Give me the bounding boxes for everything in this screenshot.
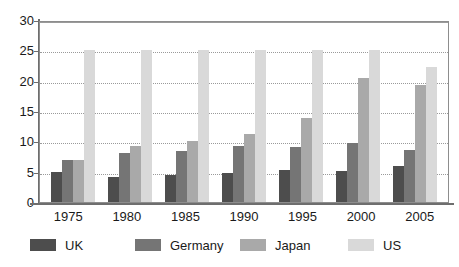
bar-japan-1975 bbox=[73, 160, 84, 202]
x-tick-label-1980: 1980 bbox=[98, 208, 156, 228]
bar-germany-1995 bbox=[290, 147, 301, 202]
bar-group-1985 bbox=[165, 22, 209, 202]
bar-japan-1985 bbox=[187, 141, 198, 202]
plot-area bbox=[39, 21, 449, 203]
x-tick-label-1985: 1985 bbox=[156, 208, 214, 228]
bar-uk-1995 bbox=[279, 170, 290, 202]
legend-label-japan: Japan bbox=[275, 239, 310, 252]
bar-group-1990 bbox=[222, 22, 266, 202]
bar-us-1980 bbox=[141, 50, 152, 202]
bars-layer bbox=[40, 22, 448, 202]
y-tick-label-5: 5 bbox=[0, 166, 34, 179]
y-tick-label-25: 25 bbox=[0, 44, 34, 57]
bar-germany-1975 bbox=[62, 160, 73, 202]
legend-item-japan[interactable]: Japan bbox=[240, 239, 310, 252]
chart-legend: UKGermanyJapanUS bbox=[30, 236, 450, 254]
bar-japan-1990 bbox=[244, 134, 255, 202]
x-tick-label-2000: 2000 bbox=[332, 208, 390, 228]
bar-germany-2005 bbox=[404, 150, 415, 202]
y-tick-label-0: 0 bbox=[0, 196, 34, 209]
bar-germany-2000 bbox=[347, 143, 358, 202]
bar-uk-1990 bbox=[222, 173, 233, 202]
y-tick-label-10: 10 bbox=[0, 135, 34, 148]
bar-uk-2000 bbox=[336, 171, 347, 202]
legend-swatch-germany bbox=[135, 239, 161, 251]
bar-japan-1995 bbox=[301, 118, 312, 202]
bar-group-2005 bbox=[393, 22, 437, 202]
bar-us-1975 bbox=[84, 50, 95, 202]
bar-uk-1975 bbox=[51, 172, 62, 202]
bar-us-1995 bbox=[312, 50, 323, 202]
legend-item-germany[interactable]: Germany bbox=[135, 239, 223, 252]
bar-japan-2005 bbox=[415, 85, 426, 202]
x-tick-label-1995: 1995 bbox=[274, 208, 332, 228]
bar-us-2005 bbox=[426, 67, 437, 202]
legend-swatch-us bbox=[348, 239, 374, 251]
x-axis-line bbox=[30, 203, 454, 205]
bar-uk-2005 bbox=[393, 166, 404, 202]
bar-uk-1980 bbox=[108, 177, 119, 202]
x-tick-label-1990: 1990 bbox=[215, 208, 273, 228]
bar-chart-figure: 051015202530 197519801985199019952000200… bbox=[0, 0, 459, 267]
y-tick-label-20: 20 bbox=[0, 75, 34, 88]
bar-japan-1980 bbox=[130, 146, 141, 202]
legend-item-uk[interactable]: UK bbox=[30, 239, 83, 252]
bar-uk-1985 bbox=[165, 175, 176, 202]
y-axis-labels: 051015202530 bbox=[0, 0, 34, 267]
legend-swatch-japan bbox=[240, 239, 266, 251]
bar-group-1980 bbox=[108, 22, 152, 202]
y-tick-label-30: 30 bbox=[0, 14, 34, 27]
bar-us-1985 bbox=[198, 50, 209, 202]
bar-us-1990 bbox=[255, 50, 266, 202]
y-tick-label-15: 15 bbox=[0, 105, 34, 118]
bar-group-1995 bbox=[279, 22, 323, 202]
bar-germany-1985 bbox=[176, 151, 187, 202]
legend-swatch-uk bbox=[30, 239, 56, 251]
legend-label-us: US bbox=[383, 239, 401, 252]
legend-item-us[interactable]: US bbox=[348, 239, 401, 252]
x-tick-label-2005: 2005 bbox=[391, 208, 449, 228]
bar-germany-1980 bbox=[119, 153, 130, 202]
legend-label-uk: UK bbox=[65, 239, 83, 252]
bar-japan-2000 bbox=[358, 78, 369, 202]
bar-group-1975 bbox=[51, 22, 95, 202]
x-axis-labels: 1975198019851990199520002005 bbox=[39, 208, 449, 228]
x-tick-label-1975: 1975 bbox=[39, 208, 97, 228]
bar-group-2000 bbox=[336, 22, 380, 202]
legend-label-germany: Germany bbox=[170, 239, 223, 252]
bar-germany-1990 bbox=[233, 146, 244, 202]
bar-us-2000 bbox=[369, 50, 380, 202]
